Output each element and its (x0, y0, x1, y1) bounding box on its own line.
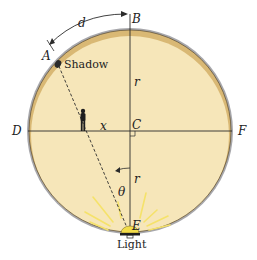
label-x: x (100, 119, 107, 133)
label-D: D (11, 124, 22, 138)
label-B: B (131, 12, 141, 26)
label-C: C (132, 118, 141, 132)
circle-diagram: B A d Shadow r x C D F r θ E Light (0, 0, 257, 260)
label-shadow: Shadow (64, 58, 109, 71)
label-light: Light (117, 238, 147, 251)
label-F: F (237, 124, 247, 138)
arrowhead-B (121, 11, 128, 17)
label-d: d (78, 16, 86, 30)
label-theta: θ (118, 185, 126, 199)
label-E: E (131, 219, 141, 233)
label-A: A (41, 49, 51, 63)
